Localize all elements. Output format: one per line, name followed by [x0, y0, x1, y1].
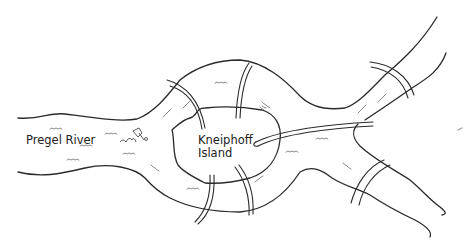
bank-upper-left	[18, 17, 437, 120]
island-label-line2: Island	[198, 147, 232, 160]
river-map	[0, 0, 467, 250]
bridge-6	[370, 62, 414, 98]
bridge-7	[351, 160, 390, 205]
bridge-5	[254, 122, 373, 146]
river-creature-sketch	[120, 128, 148, 142]
water-ripples	[50, 82, 462, 189]
bridge-1	[167, 80, 205, 129]
bank-lower-left	[18, 166, 430, 237]
bridge-2	[236, 63, 252, 118]
bridge-4	[235, 165, 253, 215]
river-label: Pregel River	[26, 134, 95, 147]
river-banks	[18, 17, 446, 237]
bank-middle-right	[354, 124, 445, 215]
